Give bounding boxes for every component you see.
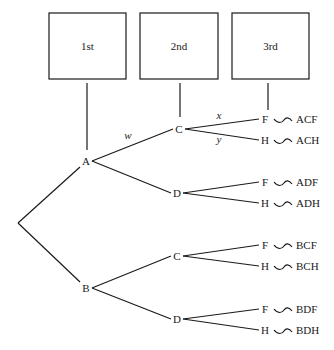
outcome-row: ACF <box>274 113 317 125</box>
edge <box>183 256 259 266</box>
outcome-row: BCF <box>274 239 317 251</box>
tilde-icon <box>274 244 292 249</box>
outcome-label: ADH <box>296 197 320 209</box>
node-h: H <box>261 197 269 209</box>
edge <box>185 119 259 129</box>
node-c: C <box>173 250 180 262</box>
edge <box>18 223 80 282</box>
outcome-label: ACH <box>296 134 319 146</box>
stage-box-3: 3rd <box>232 13 309 110</box>
node-f: F <box>262 113 268 125</box>
node-f: F <box>262 239 268 251</box>
outcome-label: ADF <box>296 176 318 188</box>
edge <box>18 167 80 223</box>
node-d: D <box>173 313 181 325</box>
outcome-label: BDF <box>296 303 317 315</box>
stage-label: 2nd <box>171 40 188 52</box>
outcome-label: ACF <box>296 113 317 125</box>
stage-box-2: 2nd <box>140 13 218 117</box>
outcome-label: BDH <box>296 324 319 336</box>
tilde-icon <box>274 118 292 123</box>
tilde-icon <box>274 265 292 270</box>
edge <box>92 256 171 288</box>
outcome-row: ACH <box>274 134 319 146</box>
stage-label: 1st <box>81 40 94 52</box>
node-a: A <box>82 155 90 167</box>
node-h: H <box>261 260 269 272</box>
outcome-row: ADF <box>274 176 318 188</box>
outcome-row: BDH <box>274 324 319 336</box>
edge <box>185 129 259 140</box>
edge <box>92 129 173 161</box>
outcome-row: BDF <box>274 303 317 315</box>
outcome-label: BCF <box>296 239 317 251</box>
outcomes: ACFACHADFADHBCFBCHBDFBDH <box>274 113 320 336</box>
stage-label: 3rd <box>263 40 278 52</box>
tilde-icon <box>274 139 292 144</box>
edge <box>183 193 259 203</box>
node-c: C <box>175 123 182 135</box>
tilde-icon <box>274 181 292 186</box>
node-h: H <box>261 324 269 336</box>
node-f: F <box>262 176 268 188</box>
edge-label-x: x <box>216 109 222 121</box>
edge-label-w: w <box>124 129 132 141</box>
outcome-row: BCH <box>274 260 319 272</box>
node-f: F <box>262 303 268 315</box>
tilde-icon <box>274 308 292 313</box>
edge <box>92 288 171 319</box>
node-d: D <box>173 187 181 199</box>
node-h: H <box>261 134 269 146</box>
tilde-icon <box>274 202 292 207</box>
tree-nodes: ABCDCDFHFHFHFH <box>82 113 269 336</box>
tilde-icon <box>274 329 292 334</box>
edge-labels: wxy <box>124 109 221 145</box>
stage-box-1: 1st <box>49 13 126 150</box>
edge <box>183 245 259 256</box>
tree-edges <box>18 119 259 330</box>
node-b: B <box>82 282 89 294</box>
outcome-label: BCH <box>296 260 319 272</box>
edge <box>183 182 259 193</box>
edge <box>92 161 171 193</box>
tree-diagram: 1st2nd3rd ABCDCDFHFHFHFH wxy ACFACHADFAD… <box>0 0 334 350</box>
outcome-row: ADH <box>274 197 320 209</box>
edge-label-y: y <box>216 133 222 145</box>
edge <box>183 319 259 330</box>
edge <box>183 309 259 319</box>
